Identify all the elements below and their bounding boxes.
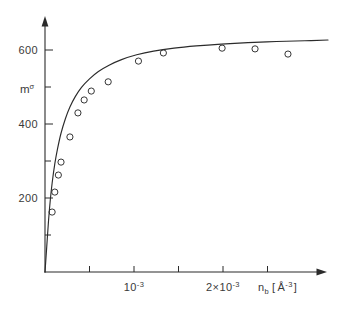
y-axis-arrowhead bbox=[42, 16, 49, 27]
x-tick-label-group: 10-3 2×10-3 bbox=[124, 280, 240, 294]
data-point-layer bbox=[49, 45, 291, 215]
x-tick-label-2e-3-prefix: 2× bbox=[206, 281, 219, 293]
data-point bbox=[52, 189, 58, 195]
y-axis-title-base: m bbox=[20, 83, 30, 95]
data-point bbox=[285, 51, 291, 57]
x-axis-title-unit-exponent: -3 bbox=[285, 280, 292, 289]
data-point bbox=[55, 172, 61, 178]
x-tick-label-2e-3-exponent: -3 bbox=[232, 280, 239, 289]
data-point bbox=[252, 46, 258, 52]
x-axis-title-bracket-open: [ bbox=[272, 281, 275, 293]
x-axis-title-subscript: b bbox=[265, 287, 270, 296]
data-point bbox=[49, 209, 55, 215]
data-point bbox=[135, 58, 141, 64]
x-axis-title-bracket-close: ] bbox=[294, 281, 297, 293]
y-tick-label-group: 600 400 200 bbox=[18, 44, 38, 204]
fit-curve bbox=[45, 40, 328, 272]
figure-root: 600 400 200 mσ 10-3 2×10-3 nb[Å-3] bbox=[0, 0, 339, 315]
x-tick-label-1e-3: 10-3 bbox=[124, 280, 145, 294]
x-axis-title: nb[Å-3] bbox=[258, 280, 297, 297]
fit-curve-layer bbox=[45, 40, 328, 272]
data-point bbox=[81, 97, 87, 103]
axis-group bbox=[42, 16, 327, 275]
data-point bbox=[219, 45, 225, 51]
y-tick-label-400: 400 bbox=[18, 118, 38, 130]
svg-text:nb[Å-3]: nb[Å-3] bbox=[258, 280, 297, 297]
y-axis-ticks bbox=[45, 50, 53, 235]
x-axis-arrowhead bbox=[317, 269, 328, 276]
x-tick-label-2e-3: 2×10-3 bbox=[206, 280, 240, 294]
data-point bbox=[105, 79, 111, 85]
x-tick-label-1e-3-base: 10 bbox=[124, 281, 137, 293]
x-axis-ticks bbox=[90, 266, 268, 272]
data-point bbox=[88, 88, 94, 94]
x-tick-label-2e-3-base: 10 bbox=[219, 281, 232, 293]
y-tick-label-200: 200 bbox=[18, 192, 38, 204]
data-point bbox=[58, 159, 64, 165]
scatter-plot-canvas: 600 400 200 mσ 10-3 2×10-3 nb[Å-3] bbox=[0, 0, 339, 315]
data-point bbox=[75, 110, 81, 116]
y-axis-title-superscript: σ bbox=[30, 82, 35, 91]
y-tick-label-600: 600 bbox=[18, 44, 38, 56]
data-point bbox=[160, 50, 166, 56]
svg-text:mσ: mσ bbox=[20, 82, 35, 96]
data-point bbox=[67, 134, 73, 140]
x-tick-label-1e-3-exponent: -3 bbox=[137, 280, 144, 289]
y-axis-title: mσ bbox=[20, 82, 35, 96]
